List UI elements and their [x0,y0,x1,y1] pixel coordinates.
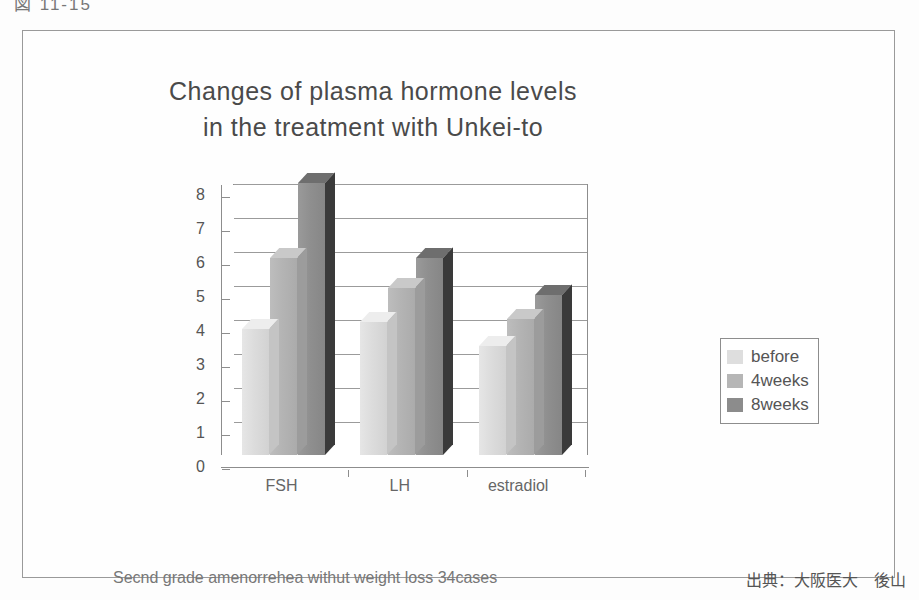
axis-left-wall [221,185,234,457]
x-tick-mark [467,470,468,477]
chart-title-line1: Changes of plasma hormone levels [23,73,723,109]
legend-swatch-before [727,350,743,364]
bar-side-face [443,247,453,455]
legend-item-8weeks: 8weeks [727,393,809,417]
legend-swatch-4weeks [727,374,743,388]
y-tick-mark [222,401,230,402]
legend-item-before: before [727,345,809,369]
y-tick-label: 0 [183,458,205,476]
y-tick-label: 8 [183,186,205,204]
footer-source: 出典：大阪医大 後山 [746,567,906,591]
legend-label-before: before [751,347,799,367]
chart-title-line2: in the treatment with Unkei-to [23,109,723,145]
bar-side-face [506,335,516,455]
gridline [234,184,587,185]
bar-FSH-before [242,329,269,455]
x-tick-label: FSH [227,477,337,495]
x-tick-mark [348,470,349,477]
figure-number-caption: 図 11-15 [14,0,92,15]
bar-side-face [387,312,397,455]
bar-side-face [562,284,572,455]
y-tick-mark [222,469,230,470]
y-tick-mark [222,231,230,232]
y-tick-label: 1 [183,424,205,442]
y-tick-label: 6 [183,254,205,272]
y-tick-label: 3 [183,356,205,374]
plot-area [233,184,588,456]
y-tick-label: 2 [183,390,205,408]
y-tick-mark [222,367,230,368]
y-tick-mark [222,333,230,334]
bar-front-face [360,322,387,455]
plot-region: 012345678FSHLHestradiol [193,176,613,486]
y-tick-label: 4 [183,322,205,340]
legend-label-8weeks: 8weeks [751,395,809,415]
floor-front-edge [221,467,589,468]
x-tick-label: LH [345,477,455,495]
legend-label-4weeks: 4weeks [751,371,809,391]
footer-note: Secnd grade amenorrehea withut weight lo… [113,569,497,587]
bar-side-face [534,308,544,455]
gridline [234,218,587,219]
figure-frame: Changes of plasma hormone levels in the … [22,30,895,578]
legend-swatch-8weeks [727,398,743,412]
bar-LH-before [360,322,387,455]
legend-item-4weeks: 4weeks [727,369,809,393]
chart-legend: before4weeks8weeks [720,338,819,424]
y-tick-label: 5 [183,288,205,306]
y-tick-mark [222,435,230,436]
y-tick-mark [222,197,230,198]
y-tick-mark [222,265,230,266]
bar-side-face [325,172,335,455]
axis-floor [221,455,589,468]
bar-front-face [479,346,506,455]
bar-side-face [269,318,279,455]
y-tick-label: 7 [183,220,205,238]
bar-estradiol-before [479,346,506,455]
y-tick-mark [222,299,230,300]
axis-wall-edge [221,185,222,457]
bar-front-face [242,329,269,455]
x-tick-mark [585,470,586,477]
x-tick-label: estradiol [463,477,573,495]
bar-side-face [297,247,307,455]
bar-side-face [415,278,425,455]
chart-title: Changes of plasma hormone levels in the … [23,73,723,145]
